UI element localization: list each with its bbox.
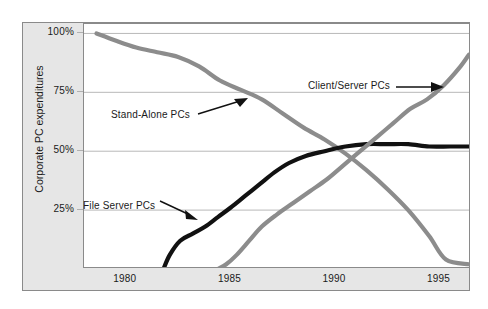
annotation-client-server-pcs: Client/Server PCs xyxy=(308,80,390,91)
y-tick-label: 100% xyxy=(34,26,74,37)
y-tick-label: 50% xyxy=(34,144,74,155)
annotation-arrow-file-server-pcs xyxy=(158,198,204,224)
x-tick-label: 1995 xyxy=(409,273,469,284)
x-tick-label: 1990 xyxy=(304,273,364,284)
series-lines xyxy=(97,33,469,268)
annotation-stand-alone-pcs: Stand-Alone PCs xyxy=(111,109,190,120)
annotation-arrow-stand-alone-pcs xyxy=(196,96,254,118)
y-tick-label: 75% xyxy=(34,85,74,96)
y-tick-label: 25% xyxy=(34,203,74,214)
y-axis-band xyxy=(23,23,83,290)
x-tick-label: 1980 xyxy=(95,273,155,284)
annotation-arrow-client-server-pcs xyxy=(396,79,448,95)
series-line-file-server-pcs xyxy=(163,144,468,268)
x-tick-label: 1985 xyxy=(199,273,259,284)
series-line-stand-alone-pcs xyxy=(97,33,469,264)
plot-area xyxy=(83,23,470,268)
gridlines xyxy=(84,33,470,210)
y-axis-title: Corporate PC expenditures xyxy=(33,29,45,229)
chart-figure: Corporate PC expenditures 100%75%50%25% … xyxy=(0,0,488,309)
annotation-file-server-pcs: File Server PCs xyxy=(83,200,155,211)
series-canvas xyxy=(84,24,470,268)
